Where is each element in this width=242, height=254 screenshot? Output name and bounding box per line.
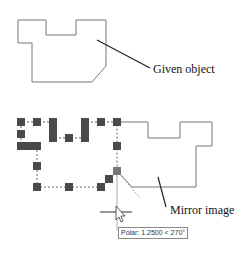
- crosshair-cursor-icon: [100, 206, 132, 222]
- mirror-preview-outline: [21, 122, 117, 187]
- grips[interactable]: [17, 118, 121, 191]
- given-leader-line: [97, 40, 150, 68]
- polar-tooltip: Polar: 1.2500 < 270°: [118, 227, 188, 239]
- mirror-leader-line: [158, 177, 166, 207]
- mirror-image-label: Mirror image: [170, 203, 234, 218]
- given-object-label: Given object: [153, 62, 215, 77]
- given-object[interactable]: [18, 20, 106, 82]
- mirror-object[interactable]: [117, 122, 212, 187]
